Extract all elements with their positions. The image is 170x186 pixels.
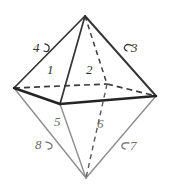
face-label-8: 8 (35, 138, 42, 151)
edge-back-bottom-dashed (86, 84, 107, 178)
upper-edges-group (14, 16, 156, 104)
face-label-3: 3 (131, 41, 138, 54)
face-label-2: 2 (86, 63, 93, 76)
equator-front-edges-group (14, 88, 156, 104)
face-label-4: 4 (33, 41, 40, 54)
octahedron-diagram (0, 0, 170, 186)
face-label-7: 7 (130, 139, 137, 152)
edge-front-bottom (60, 104, 86, 178)
edge-right-bottom (86, 96, 156, 178)
face-label-5: 5 (54, 115, 61, 128)
hook-face-4-icon (44, 44, 49, 52)
edge-left-back-dashed (14, 84, 107, 88)
edge-back-right-dashed (107, 84, 156, 96)
hook-face-8-icon (46, 142, 52, 149)
hook-face-7-icon (122, 143, 129, 149)
edge-front-right (60, 96, 156, 104)
face-label-6: 6 (97, 117, 104, 130)
face-label-1: 1 (47, 63, 54, 76)
label-hook-group (44, 44, 133, 149)
octahedron-figure: 1 2 3 4 5 6 7 8 (0, 0, 170, 186)
